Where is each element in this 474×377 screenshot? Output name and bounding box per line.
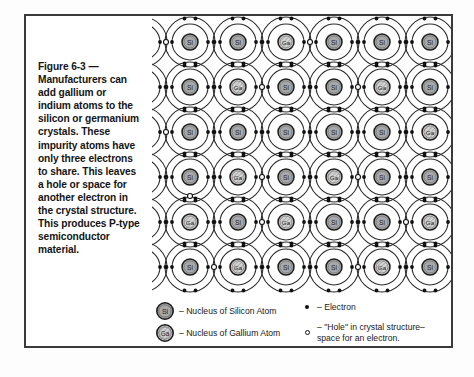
svg-text:Ga: Ga xyxy=(234,84,243,91)
svg-text:Si: Si xyxy=(283,129,289,136)
svg-text:Si: Si xyxy=(379,219,385,226)
svg-text:Si: Si xyxy=(283,84,289,91)
svg-text:Si: Si xyxy=(187,129,193,136)
svg-text:Ga: Ga xyxy=(426,219,435,226)
svg-text:Ga: Ga xyxy=(378,84,387,91)
electron-dot-icon xyxy=(300,300,314,314)
svg-text:Si: Si xyxy=(331,264,337,271)
svg-text:Ga: Ga xyxy=(161,330,170,337)
legend-item-hole: – "Hole" in crystal structure– space for… xyxy=(300,322,425,343)
legend: Si – Nucleus of Silicon Atom xyxy=(26,294,453,348)
svg-text:Si: Si xyxy=(427,264,433,271)
svg-text:Ga: Ga xyxy=(186,219,195,226)
svg-text:Si: Si xyxy=(427,84,433,91)
svg-text:Si: Si xyxy=(331,39,337,46)
gallium-nucleus-icon: Ga xyxy=(154,322,176,344)
figure-root: Figure 6-3 — Manufacturers can add galli… xyxy=(0,0,474,377)
orbit-rings xyxy=(152,17,453,292)
svg-text:Si: Si xyxy=(187,84,193,91)
svg-text:Si: Si xyxy=(427,174,433,181)
figure-frame: Figure 6-3 — Manufacturers can add galli… xyxy=(24,14,453,348)
svg-text:Si: Si xyxy=(379,174,385,181)
svg-text:Si: Si xyxy=(379,39,385,46)
legend-item-electron: – Electron xyxy=(300,300,356,314)
svg-text:Si: Si xyxy=(283,174,289,181)
svg-text:Si: Si xyxy=(283,264,289,271)
svg-text:Ga: Ga xyxy=(282,219,291,226)
svg-text:Si: Si xyxy=(235,39,241,46)
svg-text:Si: Si xyxy=(162,308,169,315)
svg-text:Si: Si xyxy=(235,129,241,136)
legend-item-gallium: Ga – Nucleus of Gallium Atom xyxy=(154,322,280,344)
svg-text:Ga: Ga xyxy=(378,264,387,271)
svg-text:Si: Si xyxy=(235,219,241,226)
svg-text:Si: Si xyxy=(331,219,337,226)
silicon-nucleus-icon: Si xyxy=(154,300,176,322)
svg-text:Ga: Ga xyxy=(234,264,243,271)
svg-text:Si: Si xyxy=(379,129,385,136)
svg-text:Si: Si xyxy=(187,264,193,271)
hole-circle-icon xyxy=(300,326,314,340)
svg-text:Ga: Ga xyxy=(426,129,435,136)
legend-label-hole: – "Hole" in crystal structure– space for… xyxy=(317,322,425,343)
legend-label-silicon: – Nucleus of Silicon Atom xyxy=(179,306,276,317)
legend-item-silicon: Si – Nucleus of Silicon Atom xyxy=(154,300,276,322)
svg-text:Ga: Ga xyxy=(234,174,243,181)
svg-text:Si: Si xyxy=(331,84,337,91)
svg-text:Si: Si xyxy=(187,174,193,181)
svg-text:Si: Si xyxy=(331,129,337,136)
svg-text:Si: Si xyxy=(187,39,193,46)
crystal-lattice-diagram: SiSiSiGaSiSiSiSiSiGaSiSiGaSiSiSiSiSiSiSi… xyxy=(152,16,453,293)
legend-label-electron: – Electron xyxy=(317,302,356,313)
holes xyxy=(152,40,453,270)
figure-caption: Figure 6-3 — Manufacturers can add galli… xyxy=(38,60,150,256)
lattice-svg: SiSiSiGaSiSiSiSiSiGaSiSiGaSiSiSiSiSiSiSi… xyxy=(152,16,453,293)
svg-text:Ga: Ga xyxy=(282,39,291,46)
svg-text:Ga: Ga xyxy=(330,174,339,181)
svg-text:Si: Si xyxy=(427,39,433,46)
legend-label-gallium: – Nucleus of Gallium Atom xyxy=(179,328,280,339)
